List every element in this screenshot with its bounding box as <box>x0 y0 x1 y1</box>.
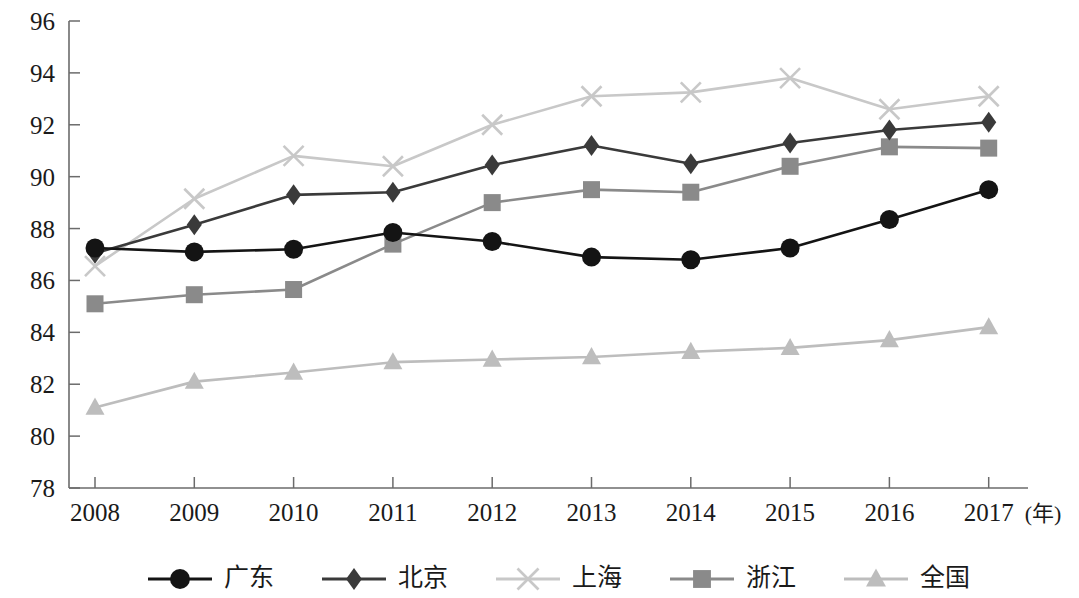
marker-circle <box>185 242 204 261</box>
marker-diamond <box>783 132 798 153</box>
marker-square <box>186 286 203 303</box>
marker-diamond <box>346 568 362 590</box>
marker-square <box>285 281 302 298</box>
y-axis-tick-label: 80 <box>30 423 55 450</box>
y-axis-tick-label: 92 <box>30 112 55 139</box>
y-axis-tick-label: 94 <box>30 60 56 87</box>
x-axis-tick-label: 2013 <box>567 499 617 526</box>
x-axis-tick-label: 2017 <box>964 499 1014 526</box>
marker-circle <box>880 210 899 229</box>
series-layer <box>85 68 999 415</box>
marker-square <box>87 295 104 312</box>
marker-cross <box>184 189 204 209</box>
chart-canvas: 78808284868890929496 2008200920102011201… <box>0 0 1079 598</box>
series-北京 <box>87 112 996 264</box>
marker-circle <box>383 223 402 242</box>
marker-square <box>980 140 997 157</box>
x-axis-unit-label: (年) <box>1025 501 1062 526</box>
y-axis: 78808284868890929496 <box>30 8 80 502</box>
marker-cross <box>482 115 502 135</box>
marker-square <box>484 194 501 211</box>
legend-label-浙江: 浙江 <box>746 564 796 591</box>
legend-label-广东: 广东 <box>224 564 274 591</box>
series-line-广东 <box>95 190 989 260</box>
legend-item-广东[interactable]: 广东 <box>148 564 274 591</box>
chart-legend: 广东北京上海浙江全国 <box>148 564 970 591</box>
x-axis-tick-label: 2012 <box>467 499 517 526</box>
marker-circle <box>582 248 601 267</box>
x-axis-tick-label: 2015 <box>765 499 815 526</box>
series-全国 <box>86 317 999 415</box>
marker-circle <box>170 569 190 589</box>
legend-item-上海[interactable]: 上海 <box>496 564 622 591</box>
x-axis: 2008200920102011201220132014201520162017… <box>69 477 1061 526</box>
series-line-北京 <box>95 122 989 253</box>
marker-square <box>782 158 799 175</box>
marker-square <box>881 138 898 155</box>
marker-circle <box>781 239 800 258</box>
marker-diamond <box>187 214 202 235</box>
y-axis-tick-label: 84 <box>30 319 56 346</box>
marker-circle <box>979 180 998 199</box>
y-axis-tick-label: 90 <box>30 164 55 191</box>
marker-diamond <box>981 112 996 133</box>
y-axis-tick-label: 86 <box>30 267 55 294</box>
marker-diamond <box>882 119 897 140</box>
legend-label-北京: 北京 <box>398 564 448 591</box>
marker-diamond <box>683 153 698 174</box>
x-axis-tick-label: 2009 <box>169 499 219 526</box>
y-axis-tick-label: 82 <box>30 371 55 398</box>
marker-circle <box>681 250 700 269</box>
marker-circle <box>483 232 502 251</box>
series-浙江 <box>87 138 998 312</box>
x-axis-tick-label: 2008 <box>70 499 120 526</box>
y-axis-tick-label: 88 <box>30 216 55 243</box>
y-axis-tick-label: 96 <box>30 8 55 35</box>
legend-item-浙江[interactable]: 浙江 <box>670 564 796 591</box>
legend-label-上海: 上海 <box>572 564 622 591</box>
marker-square <box>583 181 600 198</box>
marker-triangle <box>979 317 998 334</box>
x-axis-tick-label: 2016 <box>864 499 914 526</box>
legend-item-北京[interactable]: 北京 <box>322 564 448 591</box>
line-chart: 78808284868890929496 2008200920102011201… <box>0 0 1079 598</box>
marker-square <box>693 570 711 588</box>
series-line-浙江 <box>95 147 989 304</box>
marker-square <box>682 184 699 201</box>
marker-diamond <box>584 135 599 156</box>
marker-circle <box>284 240 303 259</box>
marker-diamond <box>286 184 301 205</box>
x-axis-tick-label: 2010 <box>269 499 319 526</box>
series-line-全国 <box>95 327 989 407</box>
marker-diamond <box>485 154 500 175</box>
series-广东 <box>86 180 999 269</box>
y-axis-tick-label: 78 <box>30 475 55 502</box>
marker-diamond <box>385 182 400 203</box>
series-上海 <box>85 68 999 276</box>
legend-label-全国: 全国 <box>920 564 970 591</box>
x-axis-tick-label: 2011 <box>368 499 417 526</box>
series-line-上海 <box>95 78 989 266</box>
x-axis-tick-label: 2014 <box>666 499 717 526</box>
legend-item-全国[interactable]: 全国 <box>844 564 970 591</box>
marker-circle <box>86 239 105 258</box>
